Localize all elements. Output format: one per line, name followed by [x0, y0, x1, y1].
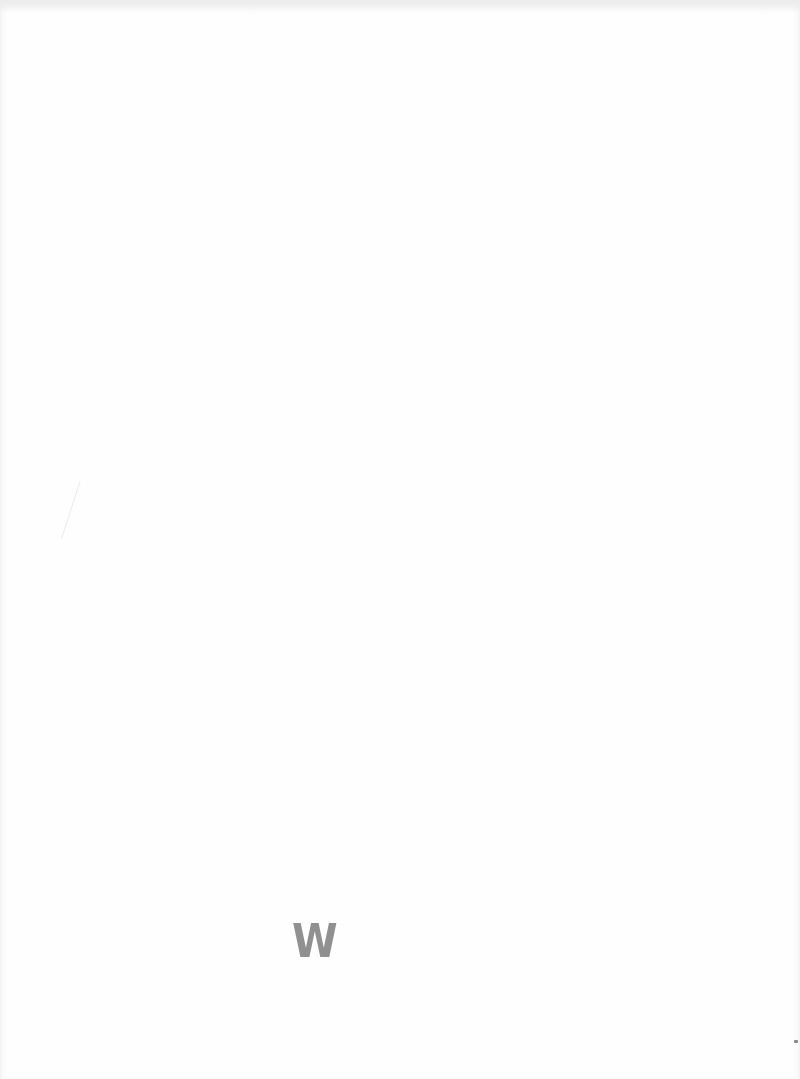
stamp-title-legible: W: [292, 914, 340, 968]
scan-speck: [794, 1040, 798, 1043]
faded-stamp: W: [292, 915, 567, 1060]
scan-edge-shadow: [0, 0, 800, 14]
scanned-page: W: [0, 0, 800, 1079]
stamp-title: W: [292, 915, 567, 967]
faint-pencil-mark: [61, 481, 94, 543]
